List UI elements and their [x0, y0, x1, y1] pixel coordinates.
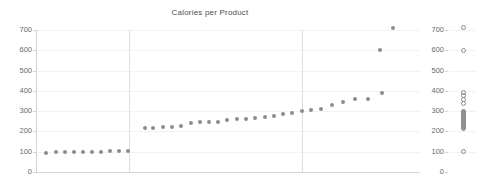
strip-y-tickmark-100	[445, 152, 448, 153]
data-point	[207, 120, 211, 124]
gridline-main-500	[37, 71, 420, 72]
main-x-axis-line	[36, 172, 420, 173]
strip-y-tickmark-500	[445, 71, 448, 72]
gridline-main-700	[37, 30, 420, 31]
main-y-tickmark-700	[33, 30, 36, 31]
strip-y-tickmark-400	[445, 91, 448, 92]
main-y-tick-0: 0	[4, 167, 32, 176]
data-point	[216, 120, 220, 124]
strip-y-tick-700: 700	[416, 25, 444, 34]
main-y-tickmark-400	[33, 91, 36, 92]
data-point	[90, 150, 94, 154]
strip-y-tickmark-200	[445, 131, 448, 132]
main-y-tick-600: 600	[4, 45, 32, 54]
main-y-tick-300: 300	[4, 106, 32, 115]
strip-y-tick-600: 600	[416, 45, 444, 54]
gridline-main-600	[37, 50, 420, 51]
data-point	[380, 91, 384, 95]
strip-y-tick-500: 500	[416, 66, 444, 75]
main-y-tickmark-100	[33, 152, 36, 153]
main-y-tickmark-500	[33, 71, 36, 72]
main-y-tick-500: 500	[4, 66, 32, 75]
strip-y-tick-100: 100	[416, 147, 444, 156]
data-point	[170, 125, 174, 129]
data-point	[300, 109, 304, 113]
data-point	[263, 115, 267, 119]
strip-y-tick-400: 400	[416, 86, 444, 95]
facet-divider-2	[302, 30, 303, 172]
strip-data-point	[461, 48, 466, 53]
data-point	[99, 150, 103, 154]
main-y-tick-700: 700	[4, 25, 32, 34]
gridline-main-100	[37, 152, 420, 153]
data-point	[72, 150, 76, 154]
data-point	[44, 151, 48, 155]
data-point	[81, 150, 85, 154]
data-point	[253, 116, 257, 120]
gridline-main-200	[37, 131, 420, 132]
gridline-main-300	[37, 111, 420, 112]
main-y-tickmark-0	[33, 172, 36, 173]
strip-y-tick-0: 0	[416, 167, 444, 176]
data-point	[244, 117, 248, 121]
strip-y-tick-300: 300	[416, 106, 444, 115]
gridline-main-400	[37, 91, 420, 92]
data-point	[319, 107, 323, 111]
chart-root: Calories per Product 0100200300400500600…	[0, 0, 486, 187]
main-y-tick-100: 100	[4, 147, 32, 156]
main-y-tickmark-600	[33, 50, 36, 51]
main-y-tick-200: 200	[4, 126, 32, 135]
gridline-strip-500	[449, 71, 476, 72]
main-chart-panel	[0, 0, 420, 187]
data-point	[235, 117, 239, 121]
data-point	[126, 149, 130, 153]
data-point	[272, 114, 276, 118]
strip-y-tick-200: 200	[416, 126, 444, 135]
gridline-strip-700	[449, 30, 476, 31]
strip-y-tickmark-700	[445, 30, 448, 31]
main-y-tick-400: 400	[4, 86, 32, 95]
strip-y-tickmark-300	[445, 111, 448, 112]
main-y-tickmark-200	[33, 131, 36, 132]
strip-y-tickmark-0	[445, 172, 448, 173]
data-point	[189, 121, 193, 125]
gridline-strip-200	[449, 131, 476, 132]
main-y-tickmark-300	[33, 111, 36, 112]
strip-data-point	[461, 101, 466, 106]
strip-y-tickmark-600	[445, 50, 448, 51]
